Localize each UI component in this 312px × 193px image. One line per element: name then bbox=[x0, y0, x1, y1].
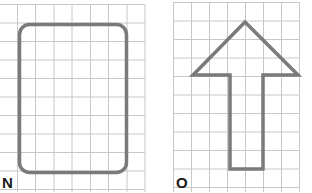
panel-o: O bbox=[160, 0, 312, 192]
grid-with-rounded-rectangle bbox=[0, 0, 150, 192]
grid-lines bbox=[0, 5, 145, 193]
grid-with-arrow bbox=[160, 0, 312, 192]
panel-label-o: O bbox=[176, 174, 188, 191]
panel-label-n: N bbox=[2, 174, 13, 191]
panel-n: N bbox=[0, 0, 150, 192]
